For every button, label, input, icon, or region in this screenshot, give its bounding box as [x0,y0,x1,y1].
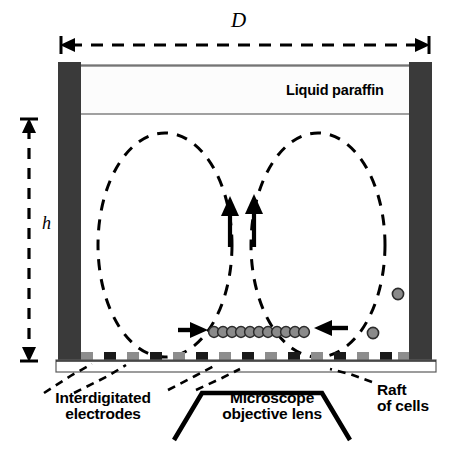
electrode [219,352,231,360]
microscope-objective-lens-label: Microscope objective lens [196,390,348,422]
electrode [127,352,139,360]
chamber-group [58,62,432,362]
interdigitated-electrodes-label: Interdigitated electrodes [27,390,179,422]
width-dimension-group [60,36,430,54]
interdigitated-electrodes-group [81,352,409,360]
electrode [334,352,346,360]
electrode [265,352,277,360]
raft-of-cells-group [209,327,310,338]
electrode [104,352,116,360]
raft-of-cells-label: Raft of cells [377,382,467,414]
height-dimension-group [20,118,38,362]
electrode [81,352,93,360]
chamber-wall-right [409,62,432,362]
electrode [196,352,208,360]
electrode [173,352,185,360]
electrode [288,352,300,360]
electrode [357,352,369,360]
cell [299,327,310,338]
glass-slide-group [56,360,436,372]
electrode [311,352,323,360]
width-dimension-label: D [231,8,246,33]
liquid-paraffin-label: Liquid paraffin [286,83,384,98]
electrode [150,352,162,360]
electrode [398,352,409,360]
cell-circulating-lower [367,327,378,338]
cell-circulating-upper [392,288,403,299]
chamber-wall-left [58,62,81,362]
figure-root: D h Liquid paraffin Interdigitated elect… [0,0,473,451]
height-dimension-label: h [42,213,51,234]
electrode [242,352,254,360]
electrode [380,352,392,360]
